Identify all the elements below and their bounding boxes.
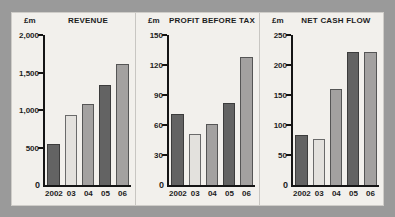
bar-04 <box>330 89 342 185</box>
bar-05 <box>223 103 235 185</box>
plot-area: 05001,0001,5002,000200203040506 <box>12 31 135 203</box>
bar-2002 <box>47 144 59 185</box>
axis-area: 0306090120150200203040506 <box>136 31 259 203</box>
bar-slot <box>114 35 131 185</box>
y-axis-unit-label: £m <box>272 16 284 25</box>
y-axis-tick-label: 1,000 <box>19 106 39 115</box>
y-axis-tick-label: 100 <box>274 121 287 130</box>
x-axis-tick-label: 06 <box>362 189 379 198</box>
chart-title: NET CASH FLOW <box>293 16 379 25</box>
y-axis-tick-label: 90 <box>154 91 163 100</box>
bar-slot <box>169 35 186 185</box>
bar-04 <box>206 124 218 185</box>
x-axis-tick-label: 05 <box>97 189 114 198</box>
bar-2002 <box>295 135 307 185</box>
y-axis-tick-label: 500 <box>26 143 39 152</box>
y-axis-tick-label: 200 <box>274 61 287 70</box>
y-axis-tick-label: 30 <box>154 151 163 160</box>
x-axis-tick-label: 06 <box>238 189 255 198</box>
bar-06 <box>364 52 376 185</box>
x-axis-line <box>43 185 131 187</box>
chart-2: £mPROFIT BEFORE TAX030609012015020020304… <box>135 13 259 205</box>
plot-area: 0306090120150200203040506 <box>136 31 259 203</box>
x-axis-tick-label: 2002 <box>293 189 311 198</box>
bar-slot <box>310 35 327 185</box>
x-axis-line <box>167 185 255 187</box>
x-axis-tick-labels: 200203040506 <box>293 189 379 198</box>
x-axis-tick-label: 05 <box>221 189 238 198</box>
x-axis-tick-label: 04 <box>328 189 345 198</box>
bar-2002 <box>171 114 183 185</box>
y-axis-tick-label: 150 <box>150 31 163 40</box>
y-axis-tick-label: 120 <box>150 61 163 70</box>
bar-slot <box>345 35 362 185</box>
bar-slot <box>203 35 220 185</box>
bar-06 <box>116 64 128 186</box>
y-axis-tick-label: 150 <box>274 91 287 100</box>
bar-03 <box>313 139 325 185</box>
bar-slot <box>327 35 344 185</box>
chart-header: £mREVENUE <box>12 13 135 31</box>
y-axis-tick-label: 60 <box>154 121 163 130</box>
bar-04 <box>82 104 94 185</box>
figure-container: £mREVENUE05001,0001,5002,000200203040506… <box>0 0 395 217</box>
y-axis-tick-label: 2,000 <box>19 31 39 40</box>
x-axis-tick-label: 04 <box>80 189 97 198</box>
chart-title: PROFIT BEFORE TAX <box>169 16 255 25</box>
x-axis-tick-label: 05 <box>345 189 362 198</box>
y-axis-unit-label: £m <box>148 16 160 25</box>
x-axis-tick-label: 2002 <box>45 189 63 198</box>
chart-1: £mREVENUE05001,0001,5002,000200203040506 <box>12 13 135 205</box>
y-axis-tick-label: 1,500 <box>19 68 39 77</box>
y-axis-tick-labels: 05001,0001,5002,000 <box>12 31 42 203</box>
bar-05 <box>99 85 111 186</box>
bar-slot <box>221 35 238 185</box>
y-axis-zero-label: 0 <box>283 180 288 190</box>
bar-slot <box>186 35 203 185</box>
bar-slot <box>97 35 114 185</box>
x-axis-tick-label: 03 <box>187 189 204 198</box>
bar-slot <box>362 35 379 185</box>
axis-area: 050100150200250200203040506 <box>260 31 383 203</box>
chart-title: REVENUE <box>45 16 131 25</box>
x-axis-tick-label: 04 <box>204 189 221 198</box>
bar-03 <box>65 115 77 185</box>
bar-slot <box>293 35 310 185</box>
x-axis-tick-label: 03 <box>311 189 328 198</box>
bar-series <box>293 35 379 185</box>
bar-series <box>169 35 255 185</box>
bar-slot <box>62 35 79 185</box>
x-axis-line <box>291 185 379 187</box>
axis-area: 05001,0001,5002,000200203040506 <box>12 31 135 203</box>
x-axis-tick-label: 03 <box>63 189 80 198</box>
y-axis-unit-label: £m <box>24 16 36 25</box>
y-axis-zero-label: 0 <box>159 180 164 190</box>
bar-slot <box>79 35 96 185</box>
bar-slot <box>238 35 255 185</box>
x-axis-tick-label: 06 <box>114 189 131 198</box>
bar-06 <box>240 57 252 185</box>
bar-03 <box>189 134 201 185</box>
bar-series <box>45 35 131 185</box>
x-axis-tick-label: 2002 <box>169 189 187 198</box>
x-axis-tick-labels: 200203040506 <box>169 189 255 198</box>
y-axis-zero-label: 0 <box>35 180 40 190</box>
chart-3: £mNET CASH FLOW0501001502002502002030405… <box>259 13 383 205</box>
plot-area: 050100150200250200203040506 <box>260 31 383 203</box>
x-axis-tick-labels: 200203040506 <box>45 189 131 198</box>
y-axis-tick-label: 50 <box>278 151 287 160</box>
bar-05 <box>347 52 359 185</box>
chart-header: £mPROFIT BEFORE TAX <box>136 13 259 31</box>
bar-slot <box>45 35 62 185</box>
y-axis-tick-label: 250 <box>274 31 287 40</box>
chart-header: £mNET CASH FLOW <box>260 13 383 31</box>
charts-panel: £mREVENUE05001,0001,5002,000200203040506… <box>11 12 384 206</box>
y-axis-tick-labels: 0306090120150 <box>136 31 166 203</box>
y-axis-tick-labels: 050100150200250 <box>260 31 290 203</box>
